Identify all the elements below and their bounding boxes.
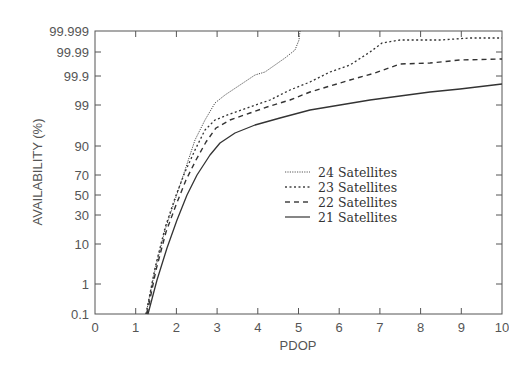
x-tick-label: 0: [91, 320, 98, 335]
legend-label: 24 Satellites: [318, 165, 397, 180]
legend: 24 Satellites 23 Satellites 22 Satellite…: [285, 165, 397, 225]
legend-item-21: 21 Satellites: [285, 210, 397, 225]
availability-chart: 0123456789100.1110305070909999.999.9999.…: [0, 0, 509, 367]
legend-item-23: 23 Satellites: [285, 180, 397, 195]
y-tick-label: 50: [75, 188, 89, 203]
x-tick-label: 6: [336, 320, 343, 335]
x-tick-label: 1: [132, 320, 139, 335]
legend-item-22: 22 Satellites: [285, 195, 397, 210]
y-tick-label: 99.99: [56, 45, 89, 60]
x-tick-label: 10: [495, 320, 509, 335]
legend-item-24: 24 Satellites: [285, 165, 397, 180]
curve-24-satellites: [146, 31, 300, 314]
axis-ticks: [95, 31, 502, 314]
y-tick-label: 10: [75, 237, 89, 252]
y-tick-label: 30: [75, 208, 89, 223]
legend-label: 23 Satellites: [318, 180, 397, 195]
legend-label: 22 Satellites: [318, 195, 397, 210]
x-tick-label: 3: [213, 320, 220, 335]
y-tick-label: 90: [75, 139, 89, 154]
x-tick-label: 7: [376, 320, 383, 335]
x-tick-label: 9: [458, 320, 465, 335]
x-tick-label: 4: [254, 320, 261, 335]
y-tick-label: 99.9: [64, 69, 89, 84]
x-tick-label: 2: [173, 320, 180, 335]
y-tick-label: 99: [75, 98, 89, 113]
y-tick-label: 99.999: [49, 24, 89, 39]
legend-label: 21 Satellites: [318, 210, 397, 225]
y-axis-title: AVAILABILITY (%): [30, 119, 45, 226]
plot-border: [95, 31, 502, 314]
y-tick-label: 0.1: [71, 307, 89, 322]
x-tick-label: 5: [295, 320, 302, 335]
x-tick-label: 8: [417, 320, 424, 335]
plot-frame: [95, 31, 502, 314]
x-axis-title: PDOP: [280, 338, 317, 353]
y-tick-label: 1: [82, 277, 89, 292]
y-tick-label: 70: [75, 168, 89, 183]
axis-tick-labels: 0123456789100.1110305070909999.999.9999.…: [49, 24, 509, 336]
